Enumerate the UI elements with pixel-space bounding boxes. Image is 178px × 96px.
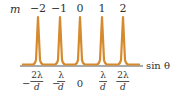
tick-minus-lambda-over-d: λ d <box>57 71 65 92</box>
order-minus-2: −2 <box>30 3 46 14</box>
order-0: 0 <box>77 3 84 14</box>
axis-label: sin θ <box>146 61 170 71</box>
intensity-curve <box>22 17 140 65</box>
tick-sign: − <box>22 78 30 89</box>
order-minus-1: −1 <box>51 3 67 14</box>
tick-minus-2lambda-over-d: 2λ d <box>30 71 43 92</box>
tick-zero: 0 <box>77 78 83 89</box>
tick-2lambda-over-d: 2λ d <box>116 71 129 92</box>
order-label: m <box>10 4 20 15</box>
order-2: 2 <box>120 3 127 14</box>
diffraction-diagram: m −2 −1 0 1 2 sin θ − 2λ d − λ d 0 λ d 2… <box>0 0 178 96</box>
tick-lambda-over-d: λ d <box>99 71 107 92</box>
order-1: 1 <box>99 3 106 14</box>
